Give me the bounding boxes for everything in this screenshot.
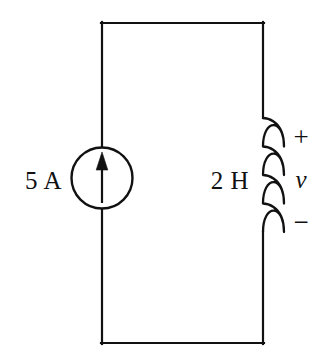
inductor-coil <box>263 118 284 232</box>
inductor-label: 2 H <box>180 168 249 193</box>
polarity-plus-label: + <box>291 124 311 151</box>
polarity-minus-label: − <box>291 209 311 236</box>
voltage-variable-label: v <box>291 167 311 192</box>
current-source-label: 5 A <box>0 168 62 193</box>
circuit-diagram-canvas: 5 A 2 H + v − <box>0 0 324 364</box>
current-source-arrow-head <box>96 152 108 170</box>
